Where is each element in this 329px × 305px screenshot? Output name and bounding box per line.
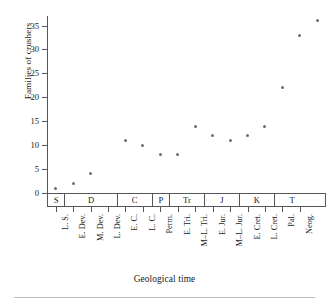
- figure-scatter-families-of-crushers: Families of crushers 05101520253035 SDCP…: [0, 0, 329, 305]
- data-point: [159, 153, 162, 156]
- x-tick-label-2: M. Dev.: [96, 214, 106, 272]
- x-tick-label-7: E. Tri.: [183, 214, 193, 272]
- data-point: [263, 125, 266, 128]
- x-tick-label-8: M–L. Tri.: [200, 214, 210, 272]
- x-tick-label-3: L. Dev.: [113, 214, 123, 272]
- x-tick-2: [91, 207, 92, 212]
- x-tick-label-14: Neog.: [305, 214, 315, 272]
- period-cell-t: T: [275, 194, 310, 206]
- data-point: [176, 153, 179, 156]
- period-cell-c: C: [118, 194, 153, 206]
- y-tick-label-30: 30: [0, 45, 39, 53]
- x-tick-9: [213, 207, 214, 212]
- x-tick-label-10: M–L. Jur.: [235, 214, 245, 272]
- x-tick-label-13: Pal.: [287, 214, 297, 272]
- x-tick-13: [282, 207, 283, 212]
- data-point: [246, 134, 249, 137]
- x-tick-3: [108, 207, 109, 212]
- y-tick-label-25: 25: [0, 69, 39, 77]
- y-tick-label-35: 35: [0, 22, 39, 30]
- data-point: [298, 34, 301, 37]
- data-point: [124, 139, 127, 142]
- data-point: [229, 139, 232, 142]
- x-tick-1: [73, 207, 74, 212]
- x-tick-label-9: E. Jur.: [218, 214, 228, 272]
- data-point: [194, 125, 197, 128]
- period-cell-j: J: [205, 194, 240, 206]
- x-tick-0: [56, 207, 57, 212]
- period-cell-tr: Tr: [170, 194, 205, 206]
- y-tick-label-15: 15: [0, 117, 39, 125]
- x-axis-title: Geological time: [0, 274, 329, 284]
- data-point: [281, 86, 284, 89]
- x-tick-label-11: E. Cret.: [253, 214, 263, 272]
- cropped-title-remnant: [45, 0, 305, 4]
- geologic-period-band: SDCPTrJKT: [47, 193, 326, 207]
- x-tick-label-1: E. Dev.: [78, 214, 88, 272]
- x-tick-12: [265, 207, 266, 212]
- y-tick-label-20: 20: [0, 93, 39, 101]
- x-tick-6: [160, 207, 161, 212]
- data-point: [72, 182, 75, 185]
- y-tick-label-10: 10: [0, 141, 39, 149]
- x-tick-11: [248, 207, 249, 212]
- x-tick-label-4: E. C.: [130, 214, 140, 272]
- data-point: [141, 144, 144, 147]
- x-tick-10: [230, 207, 231, 212]
- data-point: [54, 187, 57, 190]
- x-tick-label-6: Perm.: [165, 214, 175, 272]
- x-tick-label-0: L. S.: [61, 214, 71, 272]
- footer-rule: [14, 297, 315, 298]
- plot-area: [47, 16, 326, 192]
- period-cell-p: P: [153, 194, 170, 206]
- data-point: [211, 134, 214, 137]
- x-tick-5: [143, 207, 144, 212]
- x-tick-label-12: L. Cret.: [270, 214, 280, 272]
- x-tick-7: [178, 207, 179, 212]
- x-tick-14: [300, 207, 301, 212]
- x-tick-8: [195, 207, 196, 212]
- x-tick-4: [125, 207, 126, 212]
- period-cell-d: D: [65, 194, 117, 206]
- y-tick-label-5: 5: [0, 165, 39, 173]
- period-cell-s: S: [48, 194, 65, 206]
- data-point: [316, 19, 319, 22]
- data-point: [89, 172, 92, 175]
- period-cell-k: K: [240, 194, 275, 206]
- y-tick-label-0: 0: [0, 189, 39, 197]
- x-tick-label-5: L. C.: [148, 214, 158, 272]
